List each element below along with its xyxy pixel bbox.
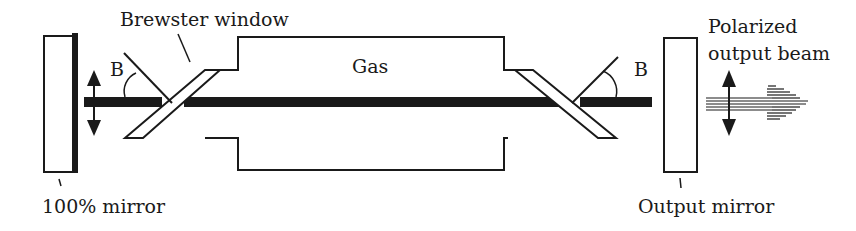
left-mirror-label: 100% mirror <box>42 195 166 217</box>
left-mirror-leader-line <box>59 179 61 186</box>
laser-diagram: 100% mirror Gas B Brewster window B Outp… <box>0 0 856 231</box>
beam-left-segment <box>84 97 162 107</box>
output-beam-label-line2: output beam <box>708 42 830 64</box>
output-beam-icon <box>706 86 808 119</box>
output-mirror-body <box>664 38 697 172</box>
right-angle-label: B <box>634 58 648 80</box>
output-polarization-arrow-icon <box>722 70 736 136</box>
beam-center-segment <box>184 97 560 107</box>
beam-right-segment <box>580 97 652 107</box>
output-mirror-label: Output mirror <box>638 195 775 217</box>
output-mirror-leader-line <box>680 178 681 188</box>
left-mirror-body <box>44 36 74 172</box>
output-beam-label-line1: Polarized <box>708 15 797 37</box>
right-brewster-angle-arc <box>603 71 617 97</box>
left-normal-line <box>124 53 172 103</box>
left-mirror-reflective-coating <box>72 33 78 173</box>
right-normal-line <box>572 57 618 103</box>
gas-label: Gas <box>352 55 388 77</box>
brewster-window-label: Brewster window <box>120 8 289 30</box>
left-angle-label: B <box>110 58 124 80</box>
left-brewster-angle-arc <box>124 73 136 97</box>
output-mirror: Output mirror <box>638 38 775 217</box>
brewster-window-leader-line <box>178 34 190 62</box>
left-brewster-window: B <box>110 53 220 138</box>
